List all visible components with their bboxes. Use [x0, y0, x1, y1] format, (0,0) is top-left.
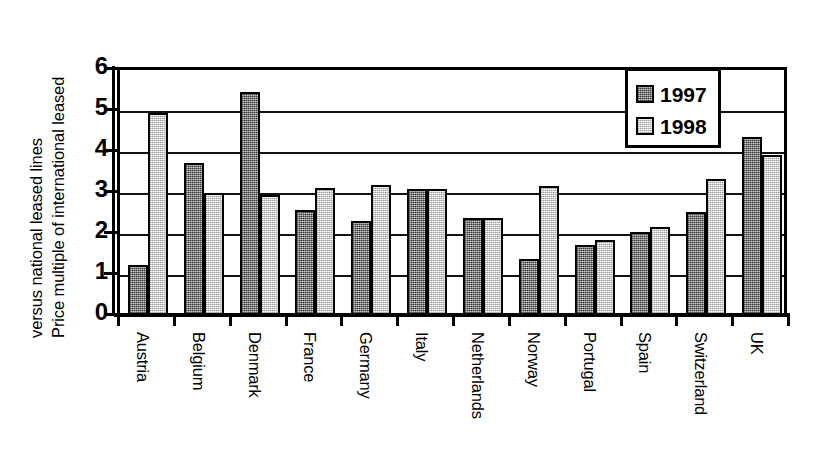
y-tick-label-6: 6	[78, 54, 108, 78]
legend-entry-1998: 1998	[636, 110, 718, 142]
bar-belgium-1997	[184, 163, 204, 315]
x-tick-mark-0	[117, 313, 120, 326]
x-label-spain: Spain	[636, 332, 654, 462]
x-tick-mark-11	[731, 313, 734, 326]
y-tick-label-3: 3	[78, 177, 108, 201]
bar-norway-1998	[539, 186, 559, 315]
x-tick-mark-7	[508, 313, 511, 326]
bar-france-1997	[295, 210, 315, 315]
x-tick-mark-6	[452, 313, 455, 326]
x-tick-mark-9	[620, 313, 623, 326]
y-tick-label-5: 5	[78, 95, 108, 119]
y-axis-title-line-1: Price multiple of international leased	[46, 8, 70, 338]
x-label-germany: Germany	[357, 332, 375, 462]
legend-swatch-1998-icon	[636, 117, 654, 135]
bar-denmark-1998	[260, 195, 280, 315]
x-label-france: France	[301, 332, 319, 462]
y-axis-title: Price multiple of international leased v…	[22, 8, 74, 338]
legend-label-1997: 1997	[660, 84, 707, 105]
y-tick-mark-5	[104, 108, 118, 111]
x-label-netherlands: Netherlands	[469, 332, 487, 462]
x-tick-mark-4	[340, 313, 343, 326]
x-tick-mark-8	[564, 313, 567, 326]
bar-austria-1997	[128, 265, 148, 315]
legend-swatch-1997-icon	[636, 85, 654, 103]
x-tick-mark-1	[173, 313, 176, 326]
y-tick-mark-3	[104, 190, 118, 193]
y-tick-label-0: 0	[78, 300, 108, 324]
y-tick-label-2: 2	[78, 218, 108, 242]
x-label-norway: Norway	[525, 332, 543, 462]
y-tick-mark-2	[104, 231, 118, 234]
bar-germany-1997	[351, 221, 371, 315]
y-tick-mark-4	[104, 149, 118, 152]
bar-chart-figure: Price multiple of international leased v…	[0, 0, 817, 462]
x-label-belgium: Belgium	[190, 332, 208, 462]
bar-uk-1998	[762, 155, 782, 315]
x-tick-mark-2	[229, 313, 232, 326]
bar-denmark-1997	[240, 92, 260, 315]
bar-france-1998	[315, 188, 335, 315]
bar-uk-1997	[742, 137, 762, 315]
x-label-uk: UK	[748, 332, 766, 462]
bar-portugal-1998	[595, 240, 615, 315]
bar-spain-1997	[630, 232, 650, 315]
y-axis-title-line-2: versus national leased lines	[24, 8, 48, 338]
bar-norway-1997	[519, 259, 539, 315]
bar-netherlands-1997	[463, 218, 483, 315]
bar-switzerland-1998	[706, 179, 726, 315]
legend-label-1998: 1998	[660, 116, 707, 137]
bar-italy-1998	[427, 189, 447, 315]
x-tick-mark-10	[675, 313, 678, 326]
x-label-denmark: Denmark	[246, 332, 264, 462]
bar-switzerland-1997	[686, 212, 706, 315]
x-tick-mark-3	[285, 313, 288, 326]
bar-belgium-1998	[204, 193, 224, 315]
x-label-italy: Italy	[413, 332, 431, 462]
x-label-switzerland: Switzerland	[692, 332, 710, 462]
x-tick-mark-5	[396, 313, 399, 326]
bar-austria-1998	[148, 113, 168, 316]
bar-portugal-1997	[575, 245, 595, 315]
y-tick-mark-1	[104, 272, 118, 275]
y-tick-label-1: 1	[78, 259, 108, 283]
x-label-austria: Austria	[134, 332, 152, 462]
chart-legend: 1997 1998	[625, 68, 721, 148]
bar-spain-1998	[650, 227, 670, 315]
x-tick-mark-12	[787, 313, 790, 326]
legend-entry-1997: 1997	[636, 78, 718, 110]
y-tick-label-4: 4	[78, 136, 108, 160]
bar-italy-1997	[407, 189, 427, 315]
y-axis-line	[112, 66, 115, 316]
bar-netherlands-1998	[483, 218, 503, 315]
bar-germany-1998	[371, 185, 391, 315]
x-label-portugal: Portugal	[581, 332, 599, 462]
y-tick-mark-6	[104, 67, 118, 70]
